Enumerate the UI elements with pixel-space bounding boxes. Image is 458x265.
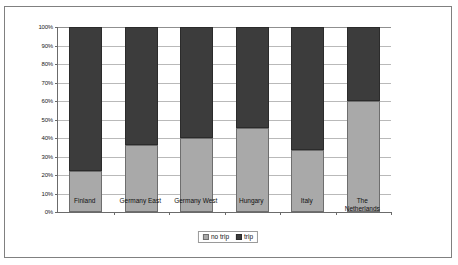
y-axis-tick-label: 90% [42, 43, 53, 49]
x-axis-category-label: Germany West [168, 197, 224, 205]
bar-column [69, 27, 102, 212]
x-axis-tick-mark [169, 212, 170, 215]
y-axis-tick-mark [55, 120, 58, 121]
x-axis-category-label: Hungary [224, 197, 280, 205]
y-axis-tick-mark [55, 83, 58, 84]
bar-segment-trip [180, 27, 213, 138]
y-axis-tick-label: 50% [42, 117, 53, 123]
chart-frame: 0%10%20%30%40%50%60%70%80%90%100% Finlan… [4, 6, 452, 258]
bar-column [180, 27, 213, 212]
bar-segment-no-trip [69, 171, 102, 212]
legend-item-no-trip: no trip [203, 233, 229, 240]
y-axis-tick-label: 70% [42, 80, 53, 86]
y-axis-tick-mark [55, 46, 58, 47]
y-axis-tick-mark [55, 157, 58, 158]
bar-column [125, 27, 158, 212]
y-axis-tick-label: 30% [42, 154, 53, 160]
x-axis-category-label: The Netherlands [335, 197, 391, 213]
y-axis-tick-mark [55, 64, 58, 65]
legend-item-trip: trip [236, 233, 253, 240]
bar-segment-trip [347, 27, 380, 101]
y-axis-tick-mark [55, 212, 58, 213]
gridline [58, 83, 391, 84]
legend-swatch-icon [236, 234, 242, 240]
y-axis-tick-label: 0% [45, 209, 53, 215]
chart-legend: no triptrip [198, 231, 258, 243]
gridline [58, 120, 391, 121]
y-axis-tick-mark [55, 27, 58, 28]
x-axis-category-label: Italy [279, 197, 335, 205]
x-axis-category-label: Finland [57, 197, 113, 205]
y-axis-tick-label: 60% [42, 98, 53, 104]
x-axis-tick-mark [225, 212, 226, 215]
y-axis-tick-mark [55, 194, 58, 195]
bar-segment-no-trip [347, 101, 380, 212]
gridline [58, 138, 391, 139]
plot-area: 0%10%20%30%40%50%60%70%80%90%100% [57, 27, 391, 213]
y-axis-tick-label: 20% [42, 172, 53, 178]
bar-segment-trip [236, 27, 269, 128]
bar-segment-trip [125, 27, 158, 145]
bar-segment-trip [69, 27, 102, 171]
y-axis-tick-mark [55, 175, 58, 176]
y-axis-tick-label: 80% [42, 61, 53, 67]
legend-label: trip [244, 233, 253, 240]
x-axis-tick-mark [114, 212, 115, 215]
bar-column [236, 27, 269, 212]
bar-column [347, 27, 380, 212]
bar-column [291, 27, 324, 212]
y-axis-tick-label: 100% [38, 24, 53, 30]
x-axis-tick-mark [280, 212, 281, 215]
gridline [58, 101, 391, 102]
y-axis-tick-mark [55, 138, 58, 139]
gridline [58, 64, 391, 65]
y-axis-tick-label: 40% [42, 135, 53, 141]
y-axis-tick-mark [55, 101, 58, 102]
x-axis-tick-mark [391, 212, 392, 215]
y-axis-tick-label: 10% [42, 191, 53, 197]
legend-label: no trip [211, 233, 229, 240]
x-axis-category-label: Germany East [113, 197, 169, 205]
legend-swatch-icon [203, 234, 209, 240]
gridline [58, 46, 391, 47]
bar-segment-trip [291, 27, 324, 150]
gridline [58, 194, 391, 195]
gridline [58, 175, 391, 176]
gridline [58, 27, 391, 28]
gridline [58, 157, 391, 158]
